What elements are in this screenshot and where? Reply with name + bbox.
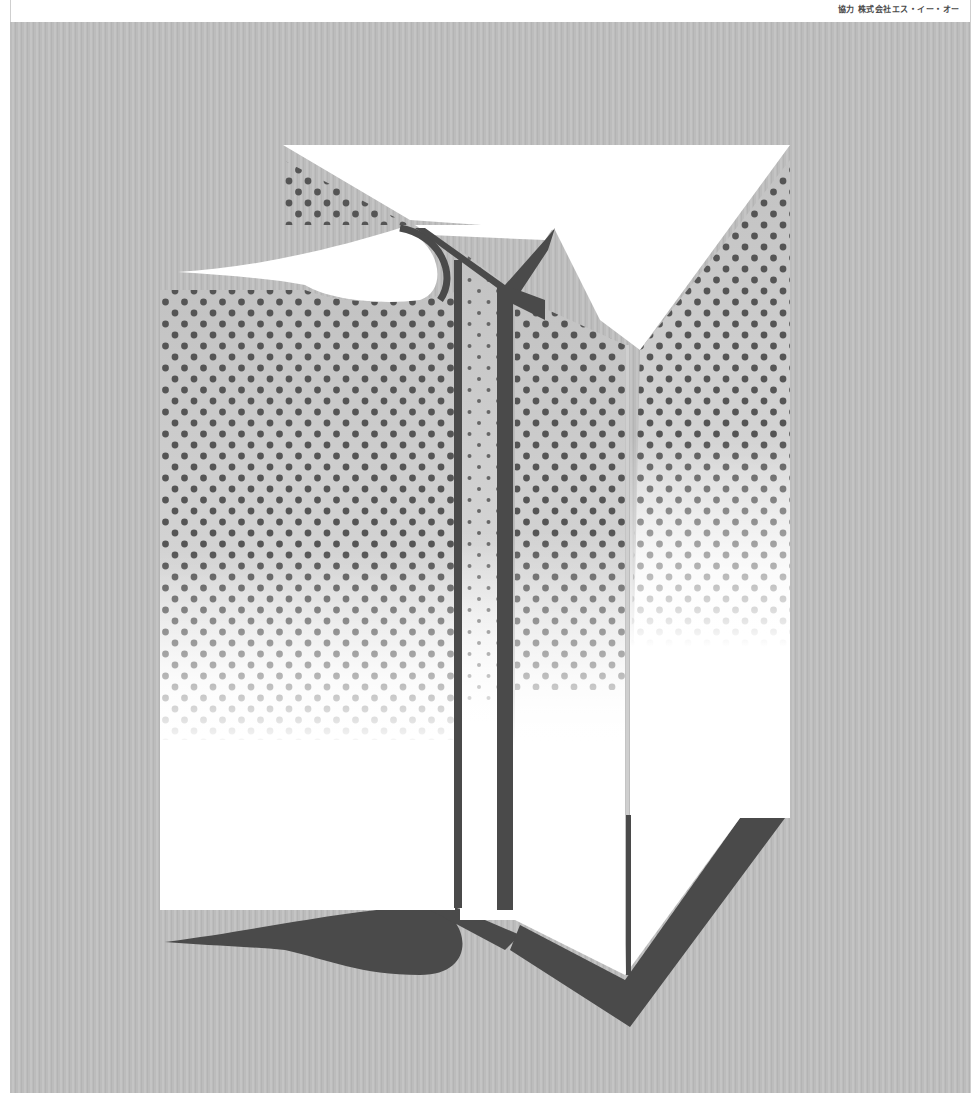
header-strip: 協力 株式会社エス・イー・オー [0, 0, 974, 22]
credit-text: 協力 株式会社エス・イー・オー [838, 3, 960, 14]
page-edge-rule [970, 0, 971, 1093]
poster-artwork [10, 22, 970, 1093]
margin-rule [10, 0, 11, 22]
poster-page: 協力 株式会社エス・イー・オー [0, 0, 974, 1093]
artwork-svg [10, 22, 970, 1093]
